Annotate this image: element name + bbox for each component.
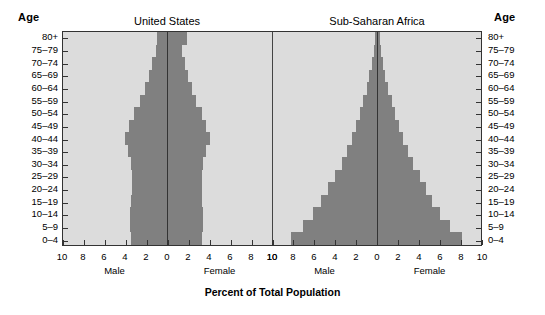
x-tick	[335, 240, 336, 245]
bar-female	[377, 107, 395, 120]
age-label-0-4: 0–4	[488, 235, 504, 245]
bar-female	[377, 82, 388, 95]
sex-label-male: Male	[301, 265, 349, 276]
y-tick	[63, 38, 68, 39]
bar-female	[377, 57, 383, 70]
y-tick	[63, 215, 68, 216]
bar-female	[377, 132, 403, 145]
age-label-75-79: 75–79	[32, 45, 58, 55]
x-tick	[272, 240, 273, 245]
bar-male	[132, 170, 168, 183]
population-pyramid-figure: Age Age United States Sub-Saharan Africa…	[0, 0, 545, 315]
bar-female	[168, 157, 204, 170]
y-tick	[63, 89, 68, 90]
x-tick	[105, 240, 106, 245]
age-label-70-74: 70–74	[32, 58, 58, 68]
x-tick	[84, 240, 85, 245]
age-label-55-59: 55–59	[488, 96, 514, 106]
x-tick	[168, 240, 169, 245]
age-label-0-4: 0–4	[42, 235, 58, 245]
x-tick	[293, 240, 294, 245]
age-label-40-44: 40–44	[488, 134, 514, 144]
bar-female	[168, 195, 202, 208]
x-tick	[419, 240, 420, 245]
x-tick	[126, 240, 127, 245]
age-label-45-49: 45–49	[32, 121, 58, 131]
x-tick	[189, 240, 190, 245]
panel-title-sub-saharan-africa: Sub-Saharan Africa	[272, 15, 482, 27]
bar-male	[130, 207, 168, 220]
x-tick	[273, 240, 274, 245]
y-tick	[63, 203, 68, 204]
bar-male	[328, 182, 377, 195]
bar-female	[168, 182, 202, 195]
bar-male	[342, 157, 377, 170]
bar-male	[129, 120, 168, 133]
y-tick	[476, 89, 481, 90]
sex-label-female: Female	[406, 265, 454, 276]
age-label-30-34: 30–34	[32, 159, 58, 169]
age-label-50-54: 50–54	[488, 108, 514, 118]
age-label-25-29: 25–29	[488, 171, 514, 181]
center-axis-sub-saharan-africa	[377, 32, 378, 245]
bar-male	[367, 82, 377, 95]
bar-male	[131, 157, 168, 170]
bar-female	[377, 95, 392, 108]
bar-male	[131, 195, 168, 208]
y-tick	[63, 127, 68, 128]
bar-male	[347, 145, 377, 158]
x-tick	[482, 240, 483, 245]
bar-female	[377, 145, 408, 158]
bar-male	[313, 207, 377, 220]
bar-female	[168, 207, 204, 220]
bar-female	[168, 95, 196, 108]
bar-male	[149, 70, 168, 83]
age-label-35-39: 35–39	[32, 146, 58, 156]
age-label-25-29: 25–29	[32, 171, 58, 181]
bar-male	[360, 107, 377, 120]
axis-title: Percent of Total Population	[0, 286, 545, 298]
y-tick	[63, 228, 68, 229]
y-tick	[63, 114, 68, 115]
bar-female	[168, 170, 202, 183]
age-axis-header-right: Age	[494, 11, 515, 23]
bar-female	[377, 157, 413, 170]
y-tick	[63, 102, 68, 103]
bar-male	[130, 220, 168, 233]
age-label-15-19: 15–19	[32, 197, 58, 207]
bar-female	[168, 120, 207, 133]
x-tick	[210, 240, 211, 245]
x-tick	[314, 240, 315, 245]
age-label-35-39: 35–39	[488, 146, 514, 156]
y-tick	[63, 51, 68, 52]
bar-male	[291, 232, 377, 245]
age-label-65-69: 65–69	[32, 70, 58, 80]
bar-female	[377, 120, 399, 133]
y-tick	[63, 140, 68, 141]
bar-female	[377, 70, 385, 83]
age-label-80+: 80+	[488, 32, 504, 42]
center-axis-united-states	[167, 32, 168, 245]
panel-title-united-states: United States	[62, 15, 272, 27]
bar-female	[168, 220, 204, 233]
x-tick	[356, 240, 357, 245]
age-label-50-54: 50–54	[32, 108, 58, 118]
bar-male	[134, 107, 167, 120]
plot-area	[62, 31, 482, 246]
x-tick	[461, 240, 462, 245]
y-tick	[476, 228, 481, 229]
x-tick	[231, 240, 232, 245]
bar-male	[156, 45, 167, 58]
age-label-60-64: 60–64	[32, 83, 58, 93]
y-tick	[476, 215, 481, 216]
age-label-5-9: 5–9	[42, 222, 58, 232]
bar-male	[157, 32, 167, 45]
age-label-10-14: 10–14	[488, 209, 514, 219]
bar-female	[168, 45, 183, 58]
y-tick	[476, 76, 481, 77]
bar-female	[168, 32, 188, 45]
y-tick	[476, 140, 481, 141]
bar-female	[377, 182, 426, 195]
y-tick	[476, 51, 481, 52]
bar-female	[168, 82, 192, 95]
